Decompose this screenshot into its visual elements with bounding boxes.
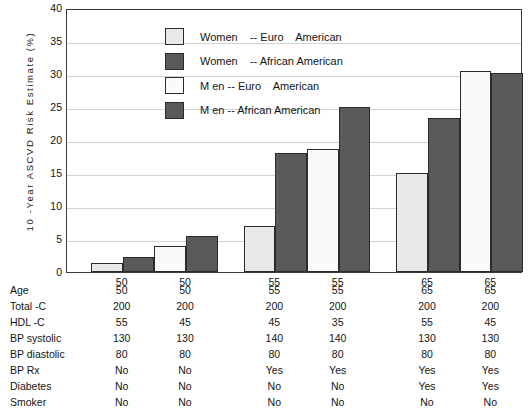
legend-item: M en -- African American [165,100,343,121]
table-cell: 80 [484,348,496,360]
bar [428,118,460,272]
table-cell: 80 [179,348,191,360]
legend-swatch-women-euro [165,28,184,45]
table-cell: 80 [116,348,128,360]
table-row: Total -C200200200200200200 [4,300,528,316]
legend-item-label: M en -- Euro American [200,80,319,92]
table-cell: 200 [418,300,436,312]
table-cell: 200 [113,300,131,312]
table-cell: 200 [329,300,347,312]
table-row: SmokerNoNoNoNoNoNo [4,396,528,412]
table-row-label: BP systolic [10,332,61,344]
table-cell: No [420,396,433,408]
table-cell: 45 [268,316,280,328]
table-cell: 50 [116,284,128,296]
table-cell: 55 [332,284,344,296]
table-cell: 45 [179,316,191,328]
table-row: BP diastolic808080808080 [4,348,528,364]
table-cell: 130 [113,332,131,344]
bar [123,257,155,272]
legend-item: M en -- Euro American [165,75,343,96]
table-cell: No [115,380,128,392]
table-cell: No [178,396,191,408]
table-cell: 130 [482,332,500,344]
table-cell: 140 [266,332,284,344]
bar [491,73,523,272]
bar [154,246,186,272]
legend-item-label: Women -- African American [200,55,343,67]
table-row: DiabetesNoNoNoNoYesYes [4,380,528,396]
y-axis-tick-label: 40 [6,2,62,14]
y-axis-tick-label: 15 [6,167,62,179]
table-row-label: BP Rx [10,364,40,376]
y-axis-tick-label: 25 [6,101,62,113]
legend-item-label: M en -- African American [200,104,320,116]
table-row-label: Age [10,284,29,296]
legend-swatch-women-african [165,53,184,70]
table-cell: 55 [116,316,128,328]
y-axis-tick-label: 5 [6,233,62,245]
table-cell: 140 [329,332,347,344]
table-cell: No [115,396,128,408]
table-cell: 45 [484,316,496,328]
table-cell: No [178,380,191,392]
table-cell: Yes [266,364,283,376]
table-row: BP RxNoNoYesYesYesYes [4,364,528,380]
table-cell: 35 [332,316,344,328]
table-cell: Yes [418,380,435,392]
plot-area: Women -- Euro AmericanWomen -- African A… [66,9,522,273]
table-cell: 65 [484,284,496,296]
table-cell: No [268,396,281,408]
table-cell: 80 [332,348,344,360]
table-row-label: Diabetes [10,380,51,392]
table-row-label: Smoker [10,396,46,408]
table-row-label: HDL -C [10,316,45,328]
table-cell: Yes [482,364,499,376]
table-cell: Yes [418,364,435,376]
table-cell: Yes [329,364,346,376]
y-axis-tick-label: 35 [6,35,62,47]
legend-swatch-men-african [165,102,184,119]
table-cell: 200 [482,300,500,312]
table-row: Age505055556565 [4,284,528,300]
table-row: BP systolic130130140140130130 [4,332,528,348]
table-cell: 50 [179,284,191,296]
table-cell: 80 [421,348,433,360]
parameter-table: Age505055556565Total -C20020020020020020… [4,284,528,412]
bar [186,236,218,272]
bar [91,263,123,272]
table-cell: 55 [421,316,433,328]
bar [275,153,307,272]
table-cell: 130 [418,332,436,344]
table-cell: No [268,380,281,392]
table-cell: 65 [421,284,433,296]
legend-item: Women -- African American [165,51,343,72]
table-cell: No [484,396,497,408]
legend-item-label: Women -- Euro American [200,31,342,43]
table-cell: No [331,396,344,408]
legend-swatch-men-euro [165,77,184,94]
table-cell: 200 [266,300,284,312]
y-axis-tick-labels: 0510152025303540 [6,9,66,273]
table-cell: No [115,364,128,376]
table-cell: 55 [268,284,280,296]
chart-legend: Women -- Euro AmericanWomen -- African A… [165,26,343,124]
chart-figure: 10 -Year ASCVD Risk Estimate (%) 0510152… [0,0,532,418]
table-cell: 130 [176,332,194,344]
legend-item: Women -- Euro American [165,26,343,47]
bar [244,226,276,272]
bar [307,149,339,272]
y-axis-tick-label: 0 [6,266,62,278]
table-cell: No [331,380,344,392]
table-row: HDL -C554545355545 [4,316,528,332]
y-axis-tick-label: 20 [6,134,62,146]
bar [460,71,492,272]
y-axis-tick-label: 10 [6,200,62,212]
table-row-label: Total -C [10,300,46,312]
bar [396,173,428,272]
table-cell: Yes [482,380,499,392]
y-axis-tick-label: 30 [6,68,62,80]
table-row-label: BP diastolic [10,348,65,360]
table-cell: 200 [176,300,194,312]
bar [339,107,371,272]
